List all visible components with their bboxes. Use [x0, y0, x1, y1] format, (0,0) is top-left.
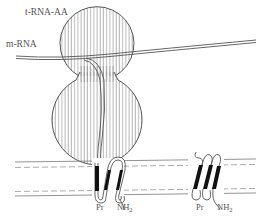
diagram-canvas: [0, 0, 256, 222]
mrna-label: m-RNA: [6, 40, 37, 50]
right-nh-text: NH: [217, 202, 229, 212]
left-nh2-label: NH2: [117, 203, 133, 214]
right-nh2-label: NH2: [217, 203, 233, 214]
ribosome-small-subunit: [60, 7, 134, 76]
right-nh-subscript: 2: [229, 206, 232, 213]
ribosome-large-subunit: [52, 72, 142, 165]
right-pr-label: Pr: [196, 203, 204, 212]
left-helix-1: [95, 166, 99, 191]
left-pr-label: Pr: [96, 203, 104, 212]
left-nh-text: NH: [117, 202, 129, 212]
ribosome: [52, 7, 142, 165]
left-nh-subscript: 2: [129, 206, 132, 213]
mrna-strand: [16, 40, 256, 60]
trna-label: t-RNA-AA: [25, 8, 68, 18]
